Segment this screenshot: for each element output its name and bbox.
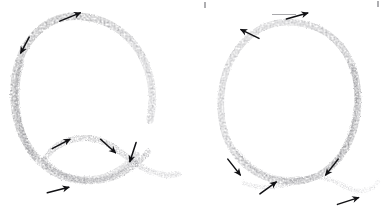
arrow-tail-left	[260, 182, 276, 194]
arrow-bowl-descend	[130, 143, 136, 162]
arrow-tail-start	[52, 139, 70, 148]
right-q-arrows	[228, 13, 359, 204]
arrow-upper-left	[21, 37, 29, 53]
direction-arrow-layer	[0, 0, 386, 215]
arrow-top-right	[286, 13, 307, 19]
arrow-bottom-left	[47, 187, 68, 192]
arrow-upper-left	[241, 30, 259, 39]
arrow-lower-left	[228, 159, 240, 175]
arrow-lower-right	[326, 159, 338, 175]
arrow-top-right	[60, 13, 80, 21]
arrow-tail-right	[338, 198, 359, 205]
left-q-arrows	[21, 13, 136, 193]
scanned-page: Q Q	[0, 0, 386, 215]
arrow-tail-crest	[101, 139, 116, 152]
